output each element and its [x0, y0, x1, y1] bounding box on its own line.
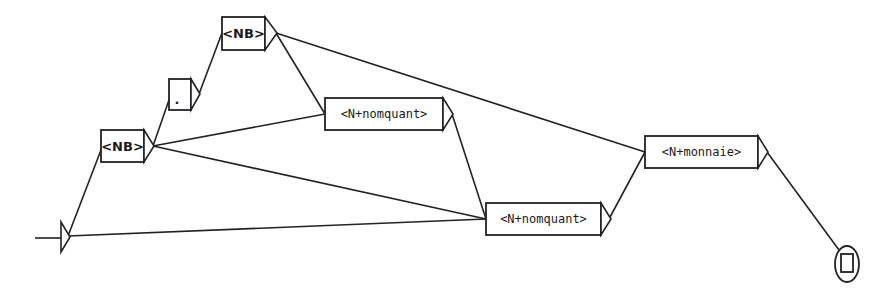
edge-nb1-to-nomquant1 — [153, 114, 325, 146]
edge-nomquant1-to-nomquant2 — [452, 114, 486, 219]
node-nomquant-upper[interactable]: <N+nomquant> — [325, 98, 453, 130]
node-nb1[interactable]: <NB> — [101, 130, 154, 162]
edge-nb1-to-nomquant2 — [153, 146, 486, 219]
initial-state-arrow-icon — [61, 222, 70, 252]
edge-nb1-to-dot — [153, 100, 169, 146]
edge-monnaie-to-final — [767, 152, 839, 250]
edge-nb2-to-nomquant1 — [276, 33, 325, 114]
initial-state[interactable] — [61, 222, 70, 252]
node-nomquant-lower[interactable]: <N+nomquant> — [486, 203, 611, 235]
node-dot[interactable]: . — [169, 79, 200, 110]
node-monnaie[interactable]: <N+monnaie> — [645, 136, 768, 168]
edge-initial-to-nomquant2 — [68, 219, 486, 236]
grammar-graph: <NB> . <NB> <N+nomquant> <N+nomquant> <N… — [0, 0, 893, 304]
node-label: . — [175, 92, 180, 107]
node-label: <N+nomquant> — [500, 212, 587, 226]
node-label: <NB> — [101, 139, 144, 154]
node-tail-icon — [601, 203, 611, 235]
node-label: <N+monnaie> — [662, 145, 741, 159]
edge-initial-to-nb1 — [68, 150, 101, 236]
edge-nb2-to-monnaie — [276, 33, 645, 152]
node-nb2[interactable]: <NB> — [222, 17, 277, 50]
node-tail-icon — [265, 17, 277, 50]
edge-dot-to-nb2 — [199, 33, 222, 94]
final-state[interactable] — [835, 246, 859, 282]
node-tail-icon — [191, 79, 200, 110]
node-label: <N+nomquant> — [341, 107, 428, 121]
node-tail-icon — [443, 98, 453, 130]
node-tail-icon — [758, 136, 768, 168]
final-state-square-icon — [841, 254, 853, 272]
node-label: <NB> — [222, 26, 265, 41]
node-tail-icon — [144, 130, 154, 162]
edge-nomquant2-to-monnaie — [609, 152, 645, 219]
